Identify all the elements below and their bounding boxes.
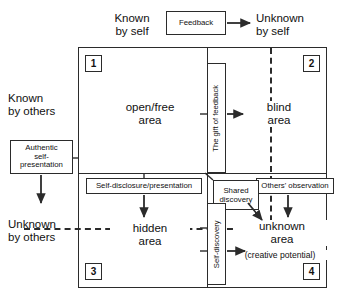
johari-window-diagram: Known by self Unknown by self Known by o… — [0, 0, 350, 306]
arrow-layer — [0, 0, 350, 306]
self-discovery-connector — [200, 228, 207, 251]
shared-discovery-arrow — [205, 173, 262, 220]
